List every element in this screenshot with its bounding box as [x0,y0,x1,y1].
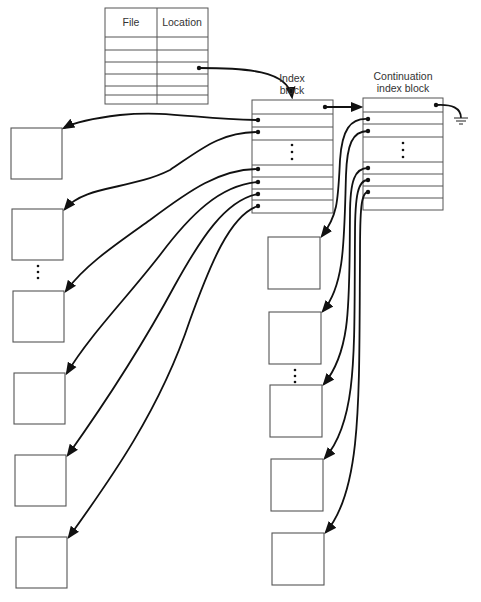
data-block [16,537,67,588]
data-block [11,128,62,179]
data-block [13,291,64,342]
data-blocks-right [268,237,324,585]
index-block-label-line1: Index [279,72,305,84]
data-block [15,455,66,506]
data-block [271,459,323,511]
data-block [14,373,65,424]
continuation-index-block [363,98,443,210]
continuation-block-label-line1: Continuation [374,70,433,82]
pointer-directory-to-index [199,68,292,97]
indexed-allocation-diagram: File Location Index block Continuation i… [0,0,481,602]
pointers-index-to-left-blocks [64,114,258,537]
data-block [270,385,322,437]
index-block [252,100,333,213]
index-block-label-line2: block [280,84,305,96]
data-block [272,533,324,585]
data-block [268,237,320,289]
data-blocks-left [11,128,67,588]
column-header-file: File [123,16,140,28]
directory-table: File Location [105,8,208,104]
column-header-location: Location [162,16,202,28]
continuation-block-label-line2: index block [377,82,430,94]
data-block [12,209,63,260]
data-block [269,312,321,364]
